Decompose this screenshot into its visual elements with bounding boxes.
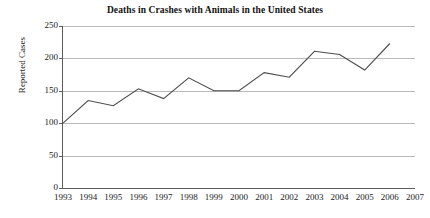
y-tick-mark bbox=[59, 123, 63, 124]
y-tick-mark bbox=[59, 58, 63, 59]
y-tick-mark bbox=[59, 156, 63, 157]
chart-figure: Deaths in Crashes with Animals in the Un… bbox=[0, 0, 430, 218]
data-series-line bbox=[0, 0, 430, 218]
y-tick-mark bbox=[59, 26, 63, 27]
y-tick-mark bbox=[59, 91, 63, 92]
series-polyline-reported-cases bbox=[63, 44, 390, 124]
y-tick-mark bbox=[59, 188, 63, 189]
